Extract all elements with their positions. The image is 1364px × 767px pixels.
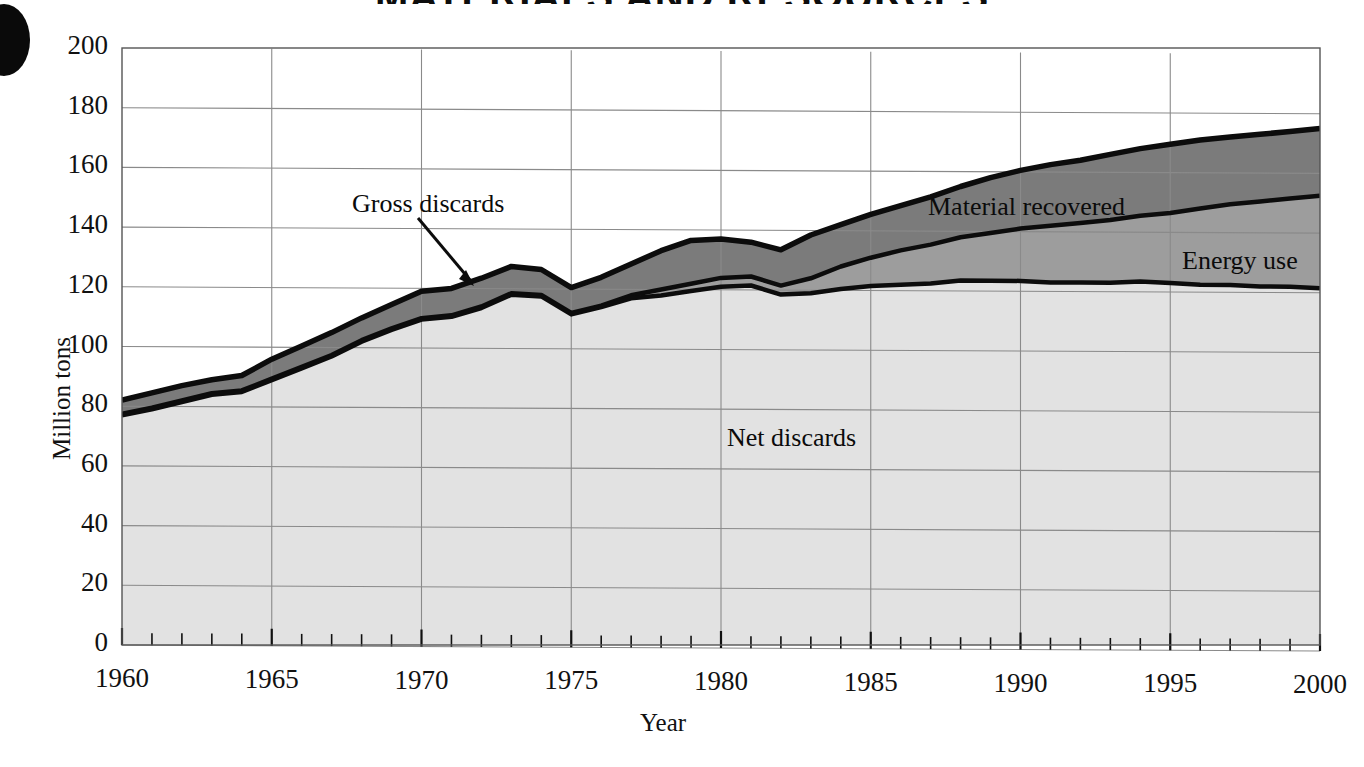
y-axis-title: Million tons xyxy=(48,337,76,460)
stacked-area-chart xyxy=(0,0,1364,767)
label-energy-use: Energy use xyxy=(1182,246,1298,276)
y-tick-label: 40 xyxy=(30,508,108,539)
y-tick-label: 140 xyxy=(30,209,108,240)
y-tick-label: 20 xyxy=(30,567,108,598)
label-gross-discards: Gross discards xyxy=(352,189,504,219)
y-tick-label: 120 xyxy=(30,269,108,300)
x-tick-label: 1995 xyxy=(1115,668,1225,699)
chart-figure: MATERIALS AND RESOURCES 0204060801001201… xyxy=(0,0,1364,767)
x-axis-title: Year xyxy=(640,709,686,737)
y-tick-label: 180 xyxy=(30,90,108,121)
x-tick-label: 1980 xyxy=(666,666,776,697)
y-tick-label: 200 xyxy=(30,30,108,61)
label-material-recovered: Material recovered xyxy=(928,192,1125,222)
x-tick-label: 1975 xyxy=(516,665,626,696)
x-tick-label: 1970 xyxy=(367,665,477,696)
x-tick-label: 2000 xyxy=(1265,669,1364,700)
y-tick-label: 160 xyxy=(30,149,108,180)
x-tick-label: 1985 xyxy=(816,667,926,698)
x-tick-label: 1965 xyxy=(217,664,327,695)
label-net-discards: Net discards xyxy=(727,423,856,453)
x-tick-label: 1960 xyxy=(67,663,177,694)
y-tick-label: 0 xyxy=(30,627,108,658)
x-tick-label: 1990 xyxy=(966,668,1076,699)
